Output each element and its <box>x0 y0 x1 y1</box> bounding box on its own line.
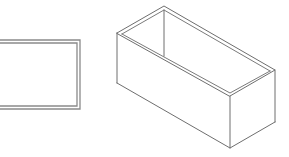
box-rim-outer <box>117 6 275 96</box>
rectangle-outer-outline <box>0 40 80 109</box>
line-drawing <box>0 0 289 157</box>
isometric-open-box <box>117 6 275 148</box>
drawing-canvas <box>0 0 289 157</box>
box-rim-inner-back <box>122 10 270 71</box>
rectangle-inner-outline <box>0 43 77 106</box>
top-view-rectangle <box>0 40 80 109</box>
box-rim-inner-front <box>122 34 270 93</box>
box-bottom-edges <box>117 83 275 148</box>
